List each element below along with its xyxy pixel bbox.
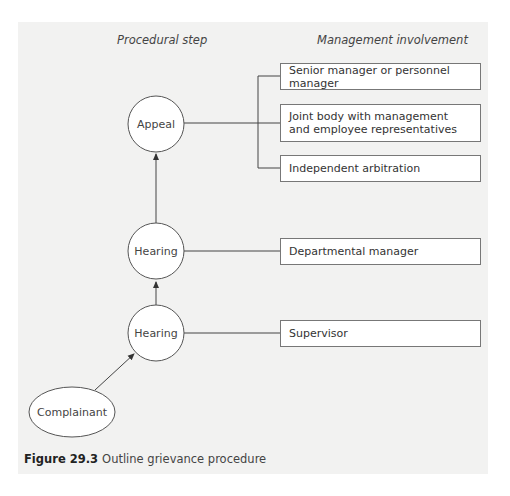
box-departmental-manager: Departmental manager [280,238,481,265]
caption-label: Figure 29.3 [24,452,98,466]
box-label: Departmental manager [289,245,418,258]
figure-caption: Figure 29.3Outline grievance procedure [24,452,266,466]
hearing-upper-label: Hearing [134,245,177,258]
complainant-label: Complainant [37,406,107,419]
arrow-complainant-to-hearing [95,354,134,390]
box-label: Independent arbitration [289,162,420,175]
hearing-lower-label: Hearing [134,327,177,340]
box-label: Joint body with management and employee … [289,110,472,136]
management-involvement-header: Management involvement [317,33,468,47]
caption-text: Outline grievance procedure [102,452,266,466]
box-label: Supervisor [289,327,348,340]
box-label: Senior manager or personnel manager [289,64,472,90]
box-independent-arbitration: Independent arbitration [280,155,481,182]
box-supervisor: Supervisor [280,320,481,347]
box-senior-manager: Senior manager or personnel manager [280,63,481,90]
procedural-step-header: Procedural step [117,33,207,47]
appeal-label: Appeal [137,118,175,131]
box-joint-body: Joint body with management and employee … [280,104,481,142]
